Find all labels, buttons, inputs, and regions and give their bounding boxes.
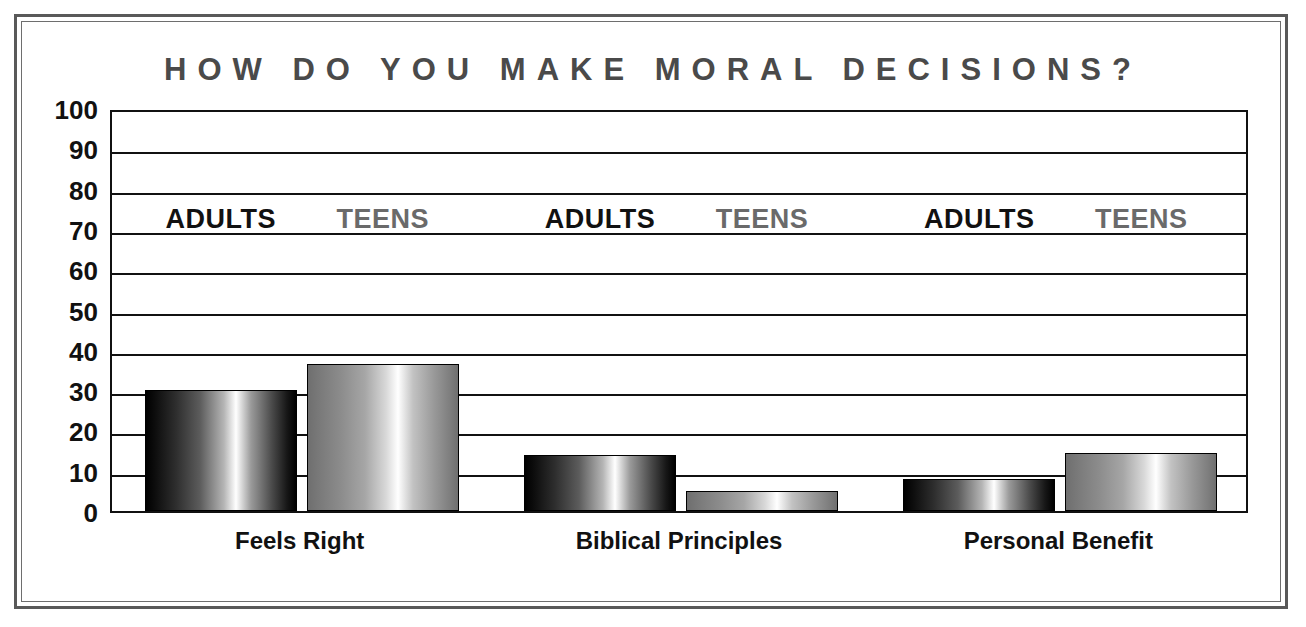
series-label-adults-biblical-principles: ADULTS <box>545 204 656 235</box>
chart-title: HOW DO YOU MAKE MORAL DECISIONS? <box>0 52 1306 88</box>
y-axis-tick-40: 40 <box>69 339 98 365</box>
y-axis-tick-0: 0 <box>84 500 98 526</box>
x-axis: Feels RightBiblical PrinciplesPersonal B… <box>110 527 1248 563</box>
y-axis-tick-70: 70 <box>69 218 98 244</box>
bar-teens-biblical-principles <box>686 491 838 511</box>
series-label-teens-biblical-principles: TEENS <box>716 204 809 235</box>
bar-teens-feels-right <box>307 364 459 511</box>
y-axis-tick-60: 60 <box>69 258 98 284</box>
series-label-teens-personal-benefit: TEENS <box>1095 204 1188 235</box>
y-axis-tick-80: 80 <box>69 178 98 204</box>
series-label-teens-feels-right: TEENS <box>336 204 429 235</box>
x-axis-label-feels-right: Feels Right <box>235 527 364 555</box>
y-axis: 1009080706050403020100 <box>20 110 104 513</box>
x-axis-label-personal-benefit: Personal Benefit <box>964 527 1153 555</box>
series-label-adults-feels-right: ADULTS <box>165 204 276 235</box>
bar-adults-personal-benefit <box>903 479 1055 511</box>
y-axis-tick-20: 20 <box>69 419 98 445</box>
plot-area: ADULTSTEENSADULTSTEENSADULTSTEENS <box>110 110 1248 513</box>
y-axis-tick-30: 30 <box>69 379 98 405</box>
y-axis-tick-50: 50 <box>69 299 98 325</box>
bars-layer: ADULTSTEENSADULTSTEENSADULTSTEENS <box>112 112 1246 511</box>
chart-page: HOW DO YOU MAKE MORAL DECISIONS? 1009080… <box>0 0 1306 627</box>
y-axis-tick-10: 10 <box>69 460 98 486</box>
bar-adults-feels-right <box>145 390 297 511</box>
y-axis-tick-100: 100 <box>55 97 98 123</box>
bar-teens-personal-benefit <box>1065 453 1217 511</box>
y-axis-tick-90: 90 <box>69 137 98 163</box>
series-label-adults-personal-benefit: ADULTS <box>924 204 1035 235</box>
x-axis-label-biblical-principles: Biblical Principles <box>576 527 783 555</box>
bar-adults-biblical-principles <box>524 455 676 511</box>
